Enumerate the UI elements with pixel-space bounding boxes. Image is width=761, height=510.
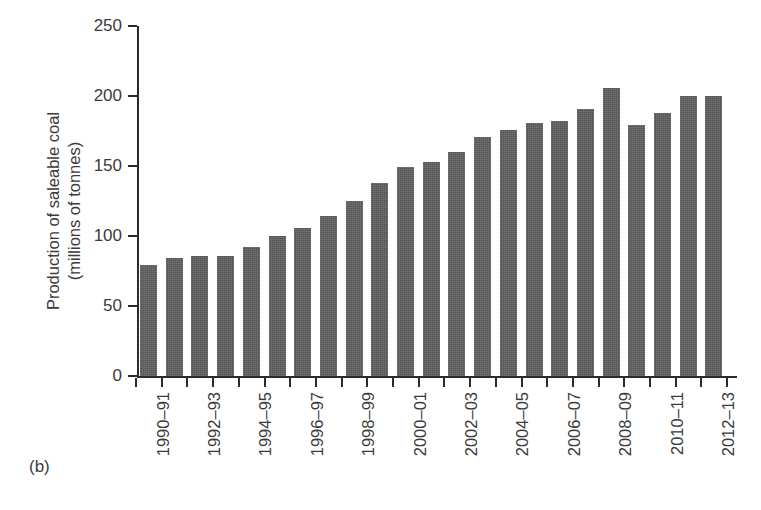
x-tick-3 [212, 378, 214, 387]
y-tick-label-100: 100 [22, 226, 122, 246]
y-tick-label-250: 250 [22, 16, 122, 36]
bar-2012–13 [705, 96, 722, 376]
y-tick-label-0: 0 [22, 366, 122, 386]
x-tick-label-1992–93: 1992–93 [205, 392, 224, 456]
bar-1990–91 [140, 265, 157, 376]
bar-2011–12 [680, 96, 697, 376]
x-tick-9 [366, 378, 368, 387]
y-tick-label-50: 50 [22, 296, 122, 316]
chart-figure: Production of saleable coal (millions of… [0, 0, 761, 510]
x-tick-label-2010–11: 2010–11 [668, 392, 687, 455]
x-tick-1 [161, 378, 163, 387]
x-tick-11 [418, 378, 420, 387]
x-tick-label-1998–99: 1998–99 [359, 392, 378, 456]
y-tick-250 [128, 25, 137, 27]
x-tick-16 [546, 378, 548, 387]
bar-1992–93 [191, 256, 208, 376]
x-tick-8 [341, 378, 343, 387]
bar-1995–96 [269, 236, 286, 376]
bar-1997–98 [320, 216, 337, 376]
y-tick-0 [128, 375, 137, 377]
bar-1994–95 [243, 247, 260, 376]
bar-2009–10 [628, 125, 645, 376]
y-tick-100 [128, 235, 137, 237]
x-tick-label-2012–13: 2012–13 [719, 392, 738, 456]
bar-2008–09 [603, 88, 620, 376]
x-tick-18 [598, 378, 600, 387]
bar-2002–03 [448, 152, 465, 376]
bar-1998–99 [346, 201, 363, 376]
x-tick-21 [675, 378, 677, 387]
x-tick-label-2000–01: 2000–01 [411, 392, 430, 456]
x-tick-10 [392, 378, 394, 387]
x-tick-20 [649, 378, 651, 387]
x-tick-label-2004–05: 2004–05 [513, 392, 532, 456]
bar-2000–01 [397, 167, 414, 376]
x-tick-12 [443, 378, 445, 387]
y-tick-label-150: 150 [22, 156, 122, 176]
x-tick-2 [186, 378, 188, 387]
bar-2001–02 [423, 162, 440, 376]
bar-1999–2000 [371, 183, 388, 376]
bar-2004–05 [500, 130, 517, 376]
y-tick-200 [128, 95, 137, 97]
x-tick-label-2006–07: 2006–07 [565, 392, 584, 456]
bar-1993–94 [217, 256, 234, 376]
bar-2003–04 [474, 137, 491, 376]
x-tick-label-2008–09: 2008–09 [616, 392, 635, 456]
x-tick-17 [572, 378, 574, 387]
bar-2010–11 [654, 113, 671, 376]
bar-2005–06 [526, 123, 543, 376]
bar-2007–08 [577, 109, 594, 376]
x-tick-15 [521, 378, 523, 387]
y-tick-50 [128, 305, 137, 307]
x-tick-4 [238, 378, 240, 387]
y-tick-label-200: 200 [22, 86, 122, 106]
x-tick-14 [495, 378, 497, 387]
x-tick-23 [726, 378, 728, 387]
x-tick-label-2002–03: 2002–03 [462, 392, 481, 456]
panel-label: (b) [29, 457, 50, 477]
bar-1996–97 [294, 228, 311, 376]
x-tick-label-1994–95: 1994–95 [256, 392, 275, 456]
x-tick-label-1990–91: 1990–91 [154, 392, 173, 456]
y-axis-line [137, 26, 139, 377]
x-tick-label-1996–97: 1996–97 [308, 392, 327, 456]
x-tick-13 [469, 378, 471, 387]
bar-1991–92 [166, 258, 183, 376]
x-tick-5 [264, 378, 266, 387]
x-tick-22 [700, 378, 702, 387]
y-tick-150 [128, 165, 137, 167]
x-tick-19 [623, 378, 625, 387]
x-tick-0 [135, 378, 137, 387]
bar-2006–07 [551, 121, 568, 376]
x-tick-7 [315, 378, 317, 387]
x-axis-line [137, 376, 737, 378]
x-tick-6 [289, 378, 291, 387]
